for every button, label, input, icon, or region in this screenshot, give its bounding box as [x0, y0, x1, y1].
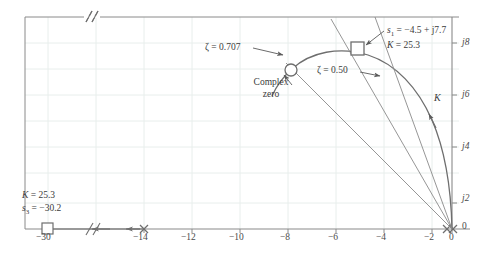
x-tick-label-minus30: −30: [36, 232, 51, 244]
y-tick-label-j8: j8: [462, 37, 469, 49]
annotation-k-branch: K: [434, 92, 441, 105]
complex-zero-line2: zero: [245, 88, 297, 100]
annotation-complex-zero: Complex zero: [245, 76, 297, 101]
annotation-s1-line1: s1 = −4.5 + j7.7: [387, 24, 446, 39]
y-axis-ticks: [452, 43, 457, 203]
x-tick-label-minus8: −8: [280, 232, 290, 244]
x-tick-label-minus2: −2: [424, 232, 434, 244]
annotation-s3-line2: s3 = −30.2: [22, 202, 61, 217]
y-tick-label-origin: 0: [462, 221, 467, 233]
annotation-s1-line2: K = 25.3: [387, 39, 446, 52]
annotation-s3-root: K = 25.3 s3 = −30.2: [22, 189, 61, 217]
y-tick-label-j4: j4: [462, 141, 469, 153]
x-axis-ticks: [48, 229, 452, 233]
annotation-s1-root: s1 = −4.5 + j7.7 K = 25.3: [387, 24, 446, 52]
root-locus-figure: −30 −14 −12 −10 −8 −6 −4 −2 0 j8 j6 j4 j…: [0, 0, 491, 253]
x-tick-label-zero: 0: [449, 232, 454, 244]
k-value-s1: = 25.3: [393, 40, 420, 50]
y-tick-label-j6: j6: [462, 89, 469, 101]
x-tick-label-minus4: −4: [376, 232, 386, 244]
damping-ray-zeta-0707: [286, 63, 452, 229]
annotation-zeta-050: ζ = 0.50: [317, 65, 348, 77]
annotation-zeta-0707: ζ = 0.707: [205, 42, 240, 54]
root-marker-s1-square: [351, 42, 364, 55]
s3-value: = −30.2: [29, 203, 61, 213]
complex-zero-line1: Complex: [245, 76, 297, 88]
x-tick-label-minus10: −10: [229, 232, 244, 244]
complex-zero-marker: [285, 64, 297, 76]
top-axis-break-mark: [84, 11, 100, 22]
y-tick-label-j2: j2: [462, 193, 469, 205]
s1-value: = −4.5 + j7.7: [394, 25, 446, 35]
x-tick-label-minus14: −14: [133, 232, 148, 244]
annotation-s3-line1: K = 25.3: [22, 189, 61, 202]
x-tick-label-minus6: −6: [328, 232, 338, 244]
x-tick-label-minus12: −12: [181, 232, 196, 244]
k-value-s3: = 25.3: [28, 190, 55, 200]
